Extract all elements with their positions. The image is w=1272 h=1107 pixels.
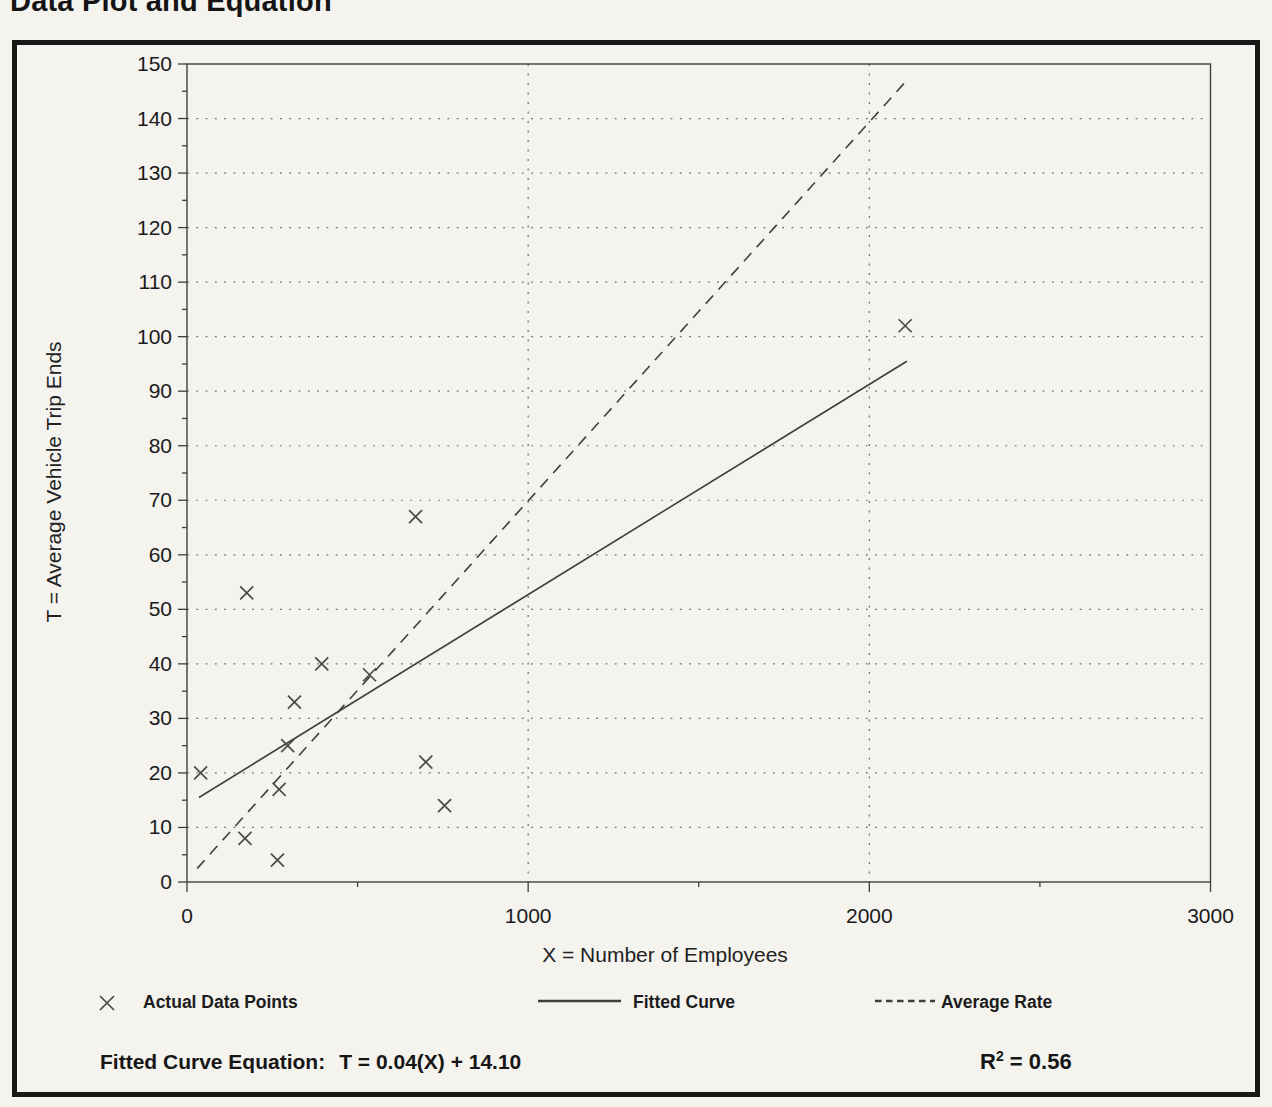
y-axis-label: T = Average Vehicle Trip Ends (42, 341, 66, 622)
data-point (409, 510, 422, 523)
dashed-line-icon (874, 996, 936, 1006)
y-tick-label: 150 (137, 52, 172, 75)
y-tick-label: 10 (149, 815, 172, 838)
x-tick-label: 1000 (505, 904, 552, 927)
fitted-curve-equation: Fitted Curve Equation:T = 0.04(X) + 14.1… (100, 1050, 521, 1074)
y-tick-label: 70 (149, 488, 172, 511)
data-point (240, 586, 253, 599)
x-tick-label: 0 (181, 904, 193, 927)
fitted-curve-line (199, 361, 907, 797)
r-squared-value: R2 = 0.56 (980, 1048, 1072, 1075)
y-tick-label: 0 (160, 870, 172, 893)
solid-line-icon (537, 996, 622, 1006)
y-tick-label: 130 (137, 161, 172, 184)
y-tick-label: 30 (149, 706, 172, 729)
y-tick-label: 120 (137, 216, 172, 239)
x-axis-label: X = Number of Employees (465, 943, 865, 967)
data-point (438, 799, 451, 812)
y-tick-label: 50 (149, 597, 172, 620)
chart: 0102030405060708090100110120130140150010… (0, 0, 1272, 1107)
average-rate-line (197, 80, 907, 868)
legend-fitted-curve-label: Fitted Curve (633, 992, 735, 1013)
data-point (288, 696, 301, 709)
x-tick-label: 2000 (846, 904, 893, 927)
data-point (419, 756, 432, 769)
x-tick-label: 3000 (1187, 904, 1234, 927)
legend-average-rate-label: Average Rate (941, 992, 1052, 1013)
y-tick-label: 80 (149, 434, 172, 457)
y-tick-label: 140 (137, 107, 172, 130)
x-marker-icon (95, 991, 119, 1015)
data-point (238, 832, 251, 845)
y-tick-label: 60 (149, 543, 172, 566)
y-tick-label: 20 (149, 761, 172, 784)
data-point (271, 854, 284, 867)
y-tick-label: 100 (137, 325, 172, 348)
equation-formula: T = 0.04(X) + 14.10 (339, 1050, 521, 1073)
y-tick-label: 90 (149, 379, 172, 402)
data-point (899, 319, 912, 332)
data-point (273, 783, 286, 796)
y-tick-label: 40 (149, 652, 172, 675)
equation-label: Fitted Curve Equation: (100, 1050, 325, 1073)
y-tick-label: 110 (139, 270, 172, 293)
plot-frame (187, 64, 1211, 882)
data-point (194, 766, 207, 779)
legend-actual-data-points-label: Actual Data Points (143, 992, 298, 1013)
data-point (363, 668, 376, 681)
